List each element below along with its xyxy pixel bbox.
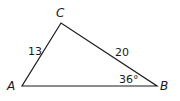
vertex-label-c: C: [56, 6, 65, 20]
side-label-ac: 13: [28, 45, 42, 58]
angle-label-b: 36°: [119, 73, 139, 86]
vertex-label-b: B: [160, 79, 168, 93]
side-label-cb: 20: [115, 46, 129, 59]
vertex-label-a: A: [6, 79, 15, 93]
triangle-diagram: A B C 13 20 36°: [0, 0, 180, 101]
